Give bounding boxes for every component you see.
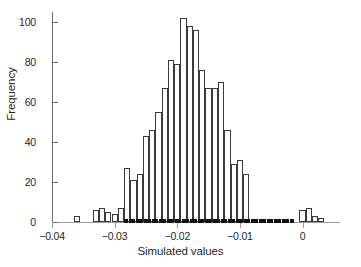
x-tick-mark: [115, 223, 116, 228]
y-tick-label: 20: [0, 176, 36, 188]
histogram-bar: [243, 174, 249, 222]
x-axis-title: Simulated values: [0, 245, 361, 257]
x-tick-mark: [52, 223, 53, 228]
rug-plot: [52, 219, 337, 223]
x-tick-mark: [177, 223, 178, 228]
y-axis-title: Frequency: [5, 39, 17, 149]
x-tick-mark: [303, 223, 304, 228]
x-tick-label: −0.04: [22, 230, 82, 242]
rug-tick: [293, 219, 294, 223]
x-tick-label: −0.02: [147, 230, 207, 242]
x-tick-label: −0.03: [85, 230, 145, 242]
y-tick-label: 100: [0, 16, 36, 28]
y-tick-label-wrap: 100: [0, 16, 36, 28]
y-tick-label-wrap: 20: [0, 176, 36, 188]
y-tick-label: 0: [0, 216, 36, 228]
x-tick-mark: [240, 223, 241, 228]
histogram-figure: 020406080100 −0.04−0.03−0.02−0.010 Simul…: [0, 0, 361, 267]
histogram-bars: [52, 12, 337, 222]
x-tick-label: −0.01: [210, 230, 270, 242]
y-tick-label-wrap: 0: [0, 216, 36, 228]
x-tick-label: 0: [273, 230, 333, 242]
